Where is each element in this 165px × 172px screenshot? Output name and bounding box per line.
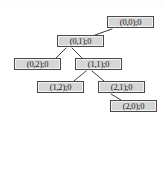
tree-node-label: (0,2);0 — [15, 59, 60, 69]
tree-node-2-1[interactable]: (2,1);0 — [98, 81, 145, 93]
tree-node-2-0[interactable]: (2,0);0 — [110, 100, 157, 112]
tree-node-0-0[interactable]: (0,0);0 — [107, 16, 154, 28]
tree-edge — [92, 71, 104, 81]
tree-node-label: (2,1);0 — [99, 82, 144, 92]
tree-node-label: (1,2);0 — [38, 82, 83, 92]
tree-edge — [74, 71, 86, 81]
scan-artifact-band — [0, 0, 165, 6]
tree-edge — [72, 48, 82, 58]
tree-node-0-1[interactable]: (0,1);0 — [57, 35, 104, 47]
tree-node-label: (0,0);0 — [108, 17, 153, 27]
tree-node-label: (0,1);0 — [58, 36, 103, 46]
tree-edge — [56, 48, 66, 58]
tree-node-1-2[interactable]: (1,2);0 — [37, 81, 84, 93]
tree-node-label: (2,0);0 — [111, 101, 156, 111]
tree-node-1-1[interactable]: (1,1);0 — [75, 58, 122, 70]
tree-node-0-2[interactable]: (0,2);0 — [14, 58, 61, 70]
tree-diagram-canvas: (0,0);0 (0,1);0 (0,2);0 (1,1);0 (1,2);0 … — [0, 0, 165, 172]
tree-node-label: (1,1);0 — [76, 59, 121, 69]
